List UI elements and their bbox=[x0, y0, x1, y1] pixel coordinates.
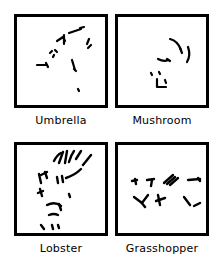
fragment-stroke bbox=[187, 47, 189, 62]
fragment-stroke bbox=[87, 39, 89, 44]
fragment-stroke bbox=[41, 225, 44, 229]
panel-frame-lobster bbox=[14, 142, 108, 236]
fragment-stroke bbox=[159, 72, 160, 74]
fragment-stroke bbox=[49, 214, 58, 215]
fragment-stroke bbox=[69, 194, 70, 197]
fragment-stroke bbox=[165, 80, 166, 83]
fragment-stroke bbox=[184, 197, 190, 205]
fragment-stroke bbox=[80, 27, 84, 28]
fragment-stroke bbox=[141, 202, 145, 207]
fragment-stroke bbox=[62, 176, 63, 182]
panel-label-mushroom: Mushroom bbox=[115, 114, 209, 128]
fragment-stroke bbox=[52, 225, 53, 229]
panel-label-umbrella: Umbrella bbox=[14, 114, 108, 128]
panel-frame-mushroom bbox=[115, 14, 209, 108]
fragment-stroke bbox=[88, 45, 91, 48]
fragment-stroke bbox=[69, 29, 81, 33]
fragment-stroke bbox=[50, 51, 52, 53]
fragment-stroke bbox=[66, 169, 81, 178]
panel-label-lobster: Lobster bbox=[14, 242, 108, 256]
fragment-stroke bbox=[151, 73, 152, 75]
fragment-stroke bbox=[57, 177, 58, 183]
stimulus-lobster bbox=[17, 145, 105, 233]
panel-umbrella: Umbrella bbox=[14, 14, 108, 128]
fragment-stroke bbox=[156, 198, 165, 201]
panel-lobster: Lobster bbox=[14, 142, 108, 256]
panel-frame-umbrella bbox=[14, 14, 108, 108]
panel-mushroom: Mushroom bbox=[115, 14, 209, 128]
fragment-stroke bbox=[83, 155, 91, 165]
fragment-stroke bbox=[46, 63, 48, 67]
fragment-stroke bbox=[69, 151, 74, 162]
fragment-stroke bbox=[53, 55, 54, 57]
panel-frame-grasshopper bbox=[115, 142, 209, 236]
panel-label-grasshopper: Grasshopper bbox=[115, 242, 209, 256]
fragment-stroke bbox=[76, 151, 81, 159]
fragment-stroke bbox=[151, 180, 152, 186]
fragment-stroke bbox=[78, 89, 79, 91]
stimulus-umbrella bbox=[17, 17, 105, 105]
figure-root: Umbrella Mushroom Lobster Grasshopper bbox=[0, 0, 221, 262]
fragment-stroke bbox=[65, 151, 67, 163]
stimulus-grasshopper bbox=[118, 145, 206, 233]
panel-grasshopper: Grasshopper bbox=[115, 142, 209, 256]
fragment-stroke bbox=[194, 203, 200, 206]
stimulus-mushroom bbox=[118, 17, 206, 105]
fragment-stroke bbox=[55, 50, 57, 52]
fragment-stroke bbox=[135, 179, 136, 184]
fragment-stroke bbox=[74, 69, 76, 71]
fragment-stroke bbox=[58, 225, 59, 228]
fragment-stroke bbox=[198, 178, 200, 181]
